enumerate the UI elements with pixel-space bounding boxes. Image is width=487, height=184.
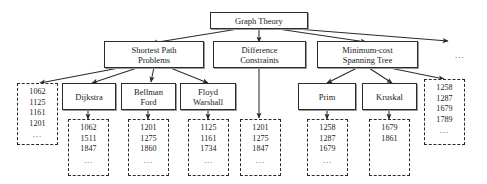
list-item: 1734 [200,144,216,155]
list-item: 1679 [381,123,397,134]
list-difference-constraints: 1201 1275 1847 ... [240,119,281,176]
list-more-ellipsis: ... [144,155,153,166]
node-difference-constraints-line-1: Difference [241,45,277,55]
node-graph-theory-line-1: Graph Theory [235,16,283,26]
edge-mst-to-kruskal [369,68,392,83]
list-item: 1201 [140,123,156,134]
list-item: 1847 [252,144,268,155]
node-bellman-ford[interactable]: Bellman Ford [121,83,176,110]
list-item: 1062 [29,87,45,98]
node-mst-line-2: Spanning Tree [343,55,392,65]
list-bellman-ford: 1201 1275 1860 ... [128,119,169,176]
list-item: 1125 [200,123,216,134]
edge-root-to-more [284,28,448,41]
edge-shortest-path-to-bellman-ford [151,67,154,82]
list-more-ellipsis: ... [440,125,449,136]
node-shortest-path-line-1: Shortest Path [131,45,176,55]
list-more-ellipsis: ... [84,155,93,166]
node-prim-line-1: Prim [319,92,336,102]
list-item: 1161 [200,134,216,145]
node-graph-theory[interactable]: Graph Theory [210,12,308,29]
list-item: 1847 [80,144,96,155]
node-kruskal[interactable]: Kruskal [362,83,417,110]
node-difference-constraints[interactable]: Difference Constraints [213,41,306,68]
list-floyd-warshall: 1125 1161 1734 ... [188,119,229,176]
list-item: 1679 [436,104,452,115]
edge-shortest-path-to-dijkstra [92,67,140,83]
list-item: 1861 [381,134,397,145]
edge-shortest-path-to-floyd-warshall [168,67,208,83]
list-item: 1287 [319,134,335,145]
list-item: 1860 [140,144,156,155]
list-kruskal: 1679 1861 [369,119,410,176]
list-item: 1161 [29,108,45,119]
list-item: 1275 [252,134,268,145]
list-prim: 1258 1287 1679 ... [307,119,348,176]
edge-mst-to-prim [327,68,357,83]
list-item: 1287 [436,94,452,105]
node-minimum-cost-spanning-tree[interactable]: Minimum-cost Spanning Tree [317,41,418,68]
list-more-ellipsis: ... [323,155,332,166]
node-dijkstra[interactable]: Dijkstra [62,83,116,110]
list-item: 1201 [252,123,268,134]
list-item: 1062 [80,123,96,134]
node-prim[interactable]: Prim [298,83,356,110]
node-floyd-warshall-line-2: Warshall [193,97,223,107]
node-floyd-warshall-line-1: Floyd [198,87,218,97]
node-shortest-path-problems[interactable]: Shortest Path Problems [104,41,204,68]
list-dijkstra: 1062 1511 1847 ... [68,119,109,176]
list-item: 1789 [436,115,452,126]
list-item: 1679 [319,144,335,155]
list-item: 1511 [80,134,96,145]
edge-shortest-path-to-list [40,67,124,83]
list-shortest-path-problems: 1062 1125 1161 1201 ... [17,83,58,145]
list-item: 1201 [29,119,45,130]
list-more-ellipsis: ... [33,129,42,140]
node-shortest-path-line-2: Problems [138,55,170,65]
node-top-level-more-ellipsis: ... [455,50,465,60]
list-item: 1275 [140,134,156,145]
list-minimum-cost-spanning-tree: 1258 1287 1679 1789 ... [424,79,465,145]
node-kruskal-line-1: Kruskal [376,92,403,102]
list-more-ellipsis: ... [256,155,265,166]
node-floyd-warshall[interactable]: Floyd Warshall [180,83,236,110]
list-item: 1258 [436,83,452,94]
node-dijkstra-line-1: Dijkstra [75,92,102,102]
list-item: 1258 [319,123,335,134]
list-more-ellipsis: ... [204,155,213,166]
node-bellman-ford-line-1: Bellman [134,87,163,97]
node-bellman-ford-line-2: Ford [140,97,156,107]
list-item: 1125 [29,98,45,109]
graph-theory-tree-diagram: Graph Theory Shortest Path Problems Diff… [0,0,487,184]
node-mst-line-1: Minimum-cost [342,45,393,55]
node-difference-constraints-line-2: Constraints [240,55,279,65]
